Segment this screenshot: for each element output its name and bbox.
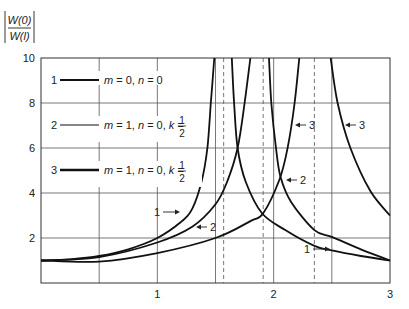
ylabel-denominator: W(l) xyxy=(9,30,29,42)
curve-label-1: 1 xyxy=(154,206,180,218)
svg-text:3: 3 xyxy=(309,119,315,131)
curve-label-1: 1 xyxy=(304,243,330,255)
y-axis-ticks: 246810 xyxy=(23,52,35,244)
arrow-right-icon xyxy=(175,210,180,215)
legend-label: m = 1, n = 0, k = xyxy=(104,119,184,131)
legend: 1m = 0, n = 02m = 1, n = 0, k = 123m = 1… xyxy=(47,71,202,187)
legend-number: 3 xyxy=(51,164,57,176)
legend-item-2: 2m = 1, n = 0, k = 12 xyxy=(47,115,202,142)
y-tick-label: 10 xyxy=(23,52,35,64)
fraction-denominator: 2 xyxy=(179,128,185,139)
svg-text:1: 1 xyxy=(304,243,310,255)
fraction-numerator: 1 xyxy=(179,160,185,171)
legend-item-3: 3m = 1, n = 0, k = 12 xyxy=(47,160,202,187)
svg-text:3: 3 xyxy=(359,119,365,131)
legend-label: m = 1, n = 0, k = xyxy=(104,164,184,176)
legend-label: m = 0, n = 0 xyxy=(104,74,163,86)
legend-number: 1 xyxy=(51,74,57,86)
curve-3-descending xyxy=(331,58,390,216)
y-axis-label: W(0)W(l) xyxy=(5,11,34,43)
y-tick-label: 6 xyxy=(29,142,35,154)
curve-2-rising xyxy=(41,58,250,261)
x-axis-ticks: 123 xyxy=(154,288,393,300)
legend-number: 2 xyxy=(51,119,57,131)
y-tick-label: 4 xyxy=(29,187,35,199)
x-tick-label: 2 xyxy=(271,288,277,300)
y-tick-label: 8 xyxy=(29,97,35,109)
y-tick-label: 2 xyxy=(29,232,35,244)
curve-1-descending xyxy=(232,58,390,261)
chart-canvas: W(0)W(l) 1m = 0, n = 02m = 1, n = 0, k =… xyxy=(0,0,409,309)
legend-item-1: 1m = 0, n = 0 xyxy=(47,71,163,86)
fraction-denominator: 2 xyxy=(179,173,185,184)
curve-3-rising xyxy=(41,58,299,262)
svg-text:2: 2 xyxy=(300,174,306,186)
curve-label-3: 3 xyxy=(345,119,365,131)
fraction-numerator: 1 xyxy=(179,115,185,126)
asymptote-dashed-lines xyxy=(224,58,315,283)
curve-label-3: 3 xyxy=(295,119,315,131)
ylabel-numerator: W(0) xyxy=(8,14,32,26)
svg-text:1: 1 xyxy=(154,206,160,218)
curve-2-descending xyxy=(269,58,390,261)
x-tick-label: 1 xyxy=(154,288,160,300)
svg-text:2: 2 xyxy=(210,221,216,233)
curve-label-2: 2 xyxy=(286,174,306,186)
x-tick-label: 3 xyxy=(387,288,393,300)
